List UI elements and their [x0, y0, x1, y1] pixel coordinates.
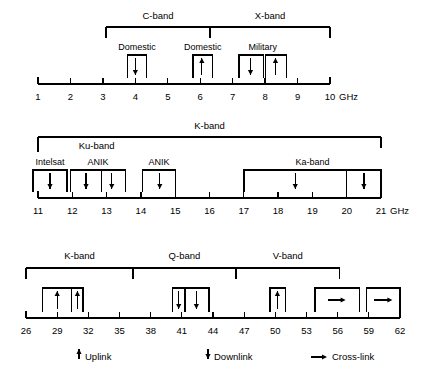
system-military-2-label: Military	[248, 42, 277, 52]
system-anik-1-label: ANIK	[88, 157, 109, 167]
axis-group-3: K-bandQ-bandV-band2629323538414447505356…	[21, 250, 406, 336]
tick-label: 53	[301, 325, 312, 336]
legend-item-crosslink: Cross-link	[311, 351, 374, 362]
system-ka-band-3-cell-0-downlink-arrowhead	[293, 184, 298, 189]
tick-label: 6	[198, 91, 203, 102]
tick-label: 1	[35, 91, 40, 102]
tick-label: 59	[364, 325, 375, 336]
legend-item-uplink-label: Uplink	[85, 351, 112, 362]
axis-unit-label: GHz	[390, 205, 409, 216]
tick-label: 9	[295, 91, 300, 102]
tick-label: 47	[239, 325, 250, 336]
tick-label: 4	[133, 91, 138, 102]
tick-label: 3	[100, 91, 105, 102]
tick-label: 19	[307, 205, 318, 216]
axis-unit-label: GHz	[339, 91, 358, 102]
system-domestic-0-cell-0	[127, 55, 146, 78]
tick-label: 14	[136, 205, 147, 216]
tick-label: 32	[83, 325, 94, 336]
sub-band-label-ku-band: Ku-band	[79, 140, 115, 151]
band-label-x-band: X-band	[255, 10, 286, 21]
tick-label: 35	[114, 325, 125, 336]
tick-label: 56	[332, 325, 343, 336]
system-military-2-cell-0	[239, 55, 263, 78]
tick-label: 41	[177, 325, 188, 336]
axis-group-2: K-bandKu-bandIntelsatANIKANIKKa-band1112…	[33, 120, 409, 216]
system-intelsat-0-cell-0-downlink-arrowhead	[47, 184, 52, 189]
system-military-2-cell-0-downlink-arrowhead	[248, 70, 253, 75]
tick-label: 44	[208, 325, 219, 336]
tick-label: 21	[376, 205, 387, 216]
system-anik-1-cell-0-downlink-arrowhead	[83, 184, 88, 189]
tick-label: 13	[101, 205, 112, 216]
system-ka-band-3-cell-1-downlink-arrowhead	[361, 184, 366, 189]
tick-label: 8	[262, 91, 267, 102]
system-anik-2-label: ANIK	[148, 157, 169, 167]
system-block-1-cell-1-downlink-arrowhead	[194, 304, 199, 309]
legend-item-crosslink-label: Cross-link	[332, 351, 374, 362]
system-block-2-cell-0-uplink-arrowhead	[275, 291, 280, 296]
system-block-1-cell-0-downlink-arrowhead	[176, 304, 181, 309]
legend-group: UplinkDownlinkCross-link	[76, 349, 374, 362]
tick-label: 18	[273, 205, 284, 216]
legend-item-crosslink-arrowhead	[322, 354, 327, 359]
tick-label: 26	[21, 325, 32, 336]
band-label-k-band: K-band	[194, 120, 225, 131]
band-label-v-band: V-band	[273, 250, 303, 261]
band-label-c-band: C-band	[142, 10, 173, 21]
tick-label: 20	[341, 205, 352, 216]
legend-item-uplink-arrowhead	[76, 349, 81, 354]
frequency-diagram-canvas: C-bandX-bandDomesticDomesticMilitary1234…	[0, 0, 421, 381]
system-block-4-cell-0-crosslink-arrowhead	[387, 297, 392, 302]
system-anik-2-cell-0-downlink-arrowhead	[157, 184, 162, 189]
system-anik-1-cell-1	[101, 170, 125, 192]
system-domestic-0-label: Domestic	[118, 42, 156, 52]
axis-group-1: C-bandX-bandDomesticDomesticMilitary1234…	[35, 10, 358, 102]
band-label-q-band: Q-band	[169, 250, 201, 261]
legend-item-downlink-arrowhead	[205, 354, 210, 359]
system-block-0-cell-0-uplink-arrowhead	[55, 291, 60, 296]
tick-label: 2	[68, 91, 73, 102]
tick-label: 12	[67, 205, 78, 216]
tick-label: 50	[270, 325, 281, 336]
frequency-band-diagram: C-bandX-bandDomesticDomesticMilitary1234…	[0, 0, 421, 381]
system-intelsat-0-label: Intelsat	[35, 157, 65, 167]
system-military-2-cell-1-uplink-arrowhead	[273, 58, 278, 63]
tick-label: 38	[145, 325, 156, 336]
tick-label: 62	[395, 325, 406, 336]
system-ka-band-3-label: Ka-band	[295, 157, 329, 167]
tick-label: 16	[204, 205, 215, 216]
tick-label: 7	[230, 91, 235, 102]
legend-item-downlink: Downlink	[205, 349, 252, 362]
tick-label: 11	[33, 205, 43, 216]
tick-label: 5	[165, 91, 170, 102]
system-domestic-1-label: Domestic	[184, 42, 222, 52]
band-label-k-band: K-band	[64, 250, 95, 261]
tick-label: 15	[170, 205, 181, 216]
legend-item-uplink: Uplink	[76, 349, 111, 362]
system-block-0-cell-1-uplink-arrowhead	[75, 291, 80, 296]
system-domestic-0-cell-0-downlink-arrowhead	[133, 70, 138, 75]
tick-label: 10	[325, 91, 336, 102]
system-anik-2-cell-0	[143, 170, 176, 192]
system-domestic-1-cell-0-uplink-arrowhead	[199, 58, 204, 63]
legend-item-downlink-label: Downlink	[214, 351, 253, 362]
system-domestic-1-cell-0	[193, 55, 212, 78]
system-anik-1-cell-1-downlink-arrowhead	[109, 184, 114, 189]
system-block-3-cell-0-crosslink-arrowhead	[341, 297, 346, 302]
tick-label: 29	[52, 325, 63, 336]
tick-label: 17	[239, 205, 250, 216]
